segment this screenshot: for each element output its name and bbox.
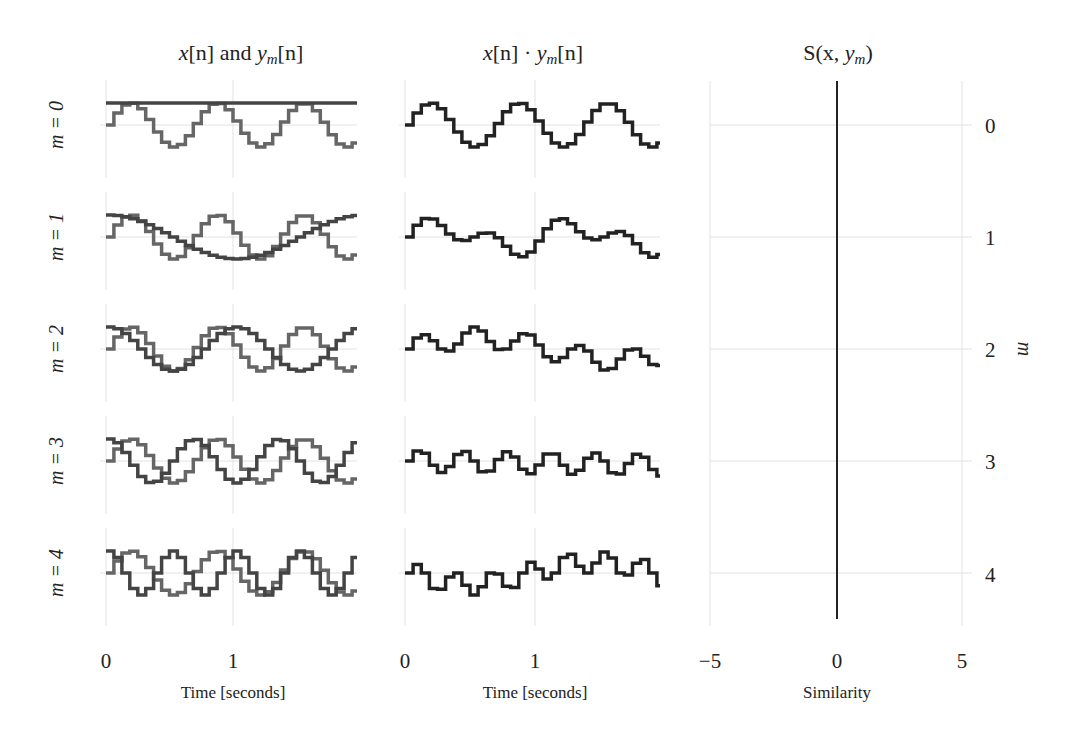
similarity-y-label: m [1014, 342, 1036, 356]
row-label-3: m = 3 [45, 437, 67, 485]
x-tick-sim-5: 5 [957, 649, 968, 673]
x-tick-signals-0: 0 [101, 649, 112, 673]
x-axis-label-product: Time [seconds] [483, 683, 588, 702]
panel-title-signals: x[n] and ym[n] [178, 40, 303, 67]
y-tick-2: 2 [985, 338, 996, 362]
x-axis-label-similarity: Similarity [803, 683, 872, 702]
x-tick-sim-neg5: −5 [699, 649, 721, 673]
panel-title-product: x[n] · ym[n] [482, 40, 583, 67]
gridlines [100, 80, 972, 626]
y-tick-0: 0 [985, 114, 996, 138]
row-labels: m = 0 m = 1 m = 2 m = 3 m = 4 [45, 101, 67, 597]
y-tick-3: 3 [985, 450, 996, 474]
row-label-1: m = 1 [45, 213, 67, 261]
product-row-3 [405, 451, 660, 476]
x-tick-signals-1: 1 [228, 649, 239, 673]
product-row-1 [405, 218, 660, 257]
row-label-0: m = 0 [45, 101, 67, 149]
x-tick-product-0: 0 [400, 649, 411, 673]
y-tick-4: 4 [985, 563, 996, 587]
row-label-2: m = 2 [45, 325, 67, 373]
panel-title-similarity: S(x, ym) [803, 40, 873, 67]
row-label-4: m = 4 [45, 549, 67, 597]
similarity-y-ticks: 0 1 2 3 4 [985, 114, 996, 587]
x-axis-label-signals: Time [seconds] [181, 683, 286, 702]
x-tick-product-1: 1 [530, 649, 541, 673]
x-tick-sim-0: 0 [832, 649, 843, 673]
y-tick-1: 1 [985, 226, 996, 250]
figure: x[n] and ym[n] x[n] · ym[n] S(x, ym) m =… [0, 0, 1073, 753]
